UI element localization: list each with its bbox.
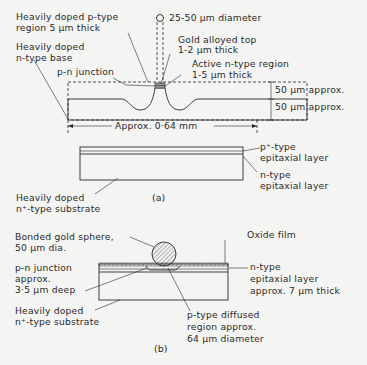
- label-width-dimension: Approx. 0·64 mm: [115, 120, 197, 131]
- label-pn-junction: p-n junction: [57, 66, 114, 77]
- caption-a: (a): [152, 192, 165, 203]
- label-n-layer-2: epitaxial layer: [260, 180, 328, 191]
- label-n-type-base-2: n-type base: [16, 52, 73, 63]
- label-pn-junction-b: p-n junction: [15, 262, 72, 273]
- label-dim-lower: 50 µm approx.: [275, 101, 345, 112]
- whisker-tip-icon: [157, 15, 164, 22]
- label-n-epi: n-type: [250, 261, 281, 272]
- label-active-region-thickness: 1-5 µm thick: [192, 69, 253, 80]
- label-active-region: Active n-type region: [192, 58, 289, 69]
- label-n-epi-2: epitaxial layer: [250, 273, 318, 284]
- label-gold-sphere-diameter: 50 µm dia.: [15, 242, 66, 253]
- label-pn-junction-b-depth: 3·5 µm deep: [15, 284, 75, 295]
- label-p-diffused-diameter: 64 µm diameter: [187, 333, 264, 344]
- label-pn-junction-b-2: approx.: [15, 273, 51, 284]
- label-n-type-base: Heavily doped: [16, 41, 84, 52]
- gold-sphere: [152, 242, 176, 266]
- label-substrate-2: n⁺-type substrate: [16, 203, 100, 214]
- label-n-layer: n-type: [260, 169, 291, 180]
- label-p-type-region: Heavily doped p-type: [16, 11, 119, 22]
- figure-a-mesa-diode: Heavily doped p-type region 5 µm thick H…: [16, 11, 345, 135]
- diode-construction-diagram: Heavily doped p-type region 5 µm thick H…: [0, 0, 367, 365]
- label-gold-sphere: Bonded gold sphere,: [15, 231, 114, 242]
- label-gold-top-thickness: 1-2 µm thick: [178, 44, 239, 55]
- figure-a-epitaxial-structure: p⁺-type epitaxial layer n-type epitaxial…: [16, 141, 328, 214]
- label-p-plus-layer-2: epitaxial layer: [260, 152, 328, 163]
- label-substrate-b: Heavily doped: [15, 305, 83, 316]
- label-p-diffused: p-type diffused: [187, 309, 260, 320]
- label-p-plus-layer: p⁺-type: [260, 141, 296, 152]
- label-oxide-film: Oxide film: [247, 229, 296, 240]
- label-p-diffused-2: region approx.: [187, 321, 256, 332]
- label-substrate-b-2: n⁺-type substrate: [15, 316, 99, 327]
- label-substrate: Heavily doped: [16, 192, 84, 203]
- label-p-type-region-thickness: region 5 µm thick: [16, 22, 101, 33]
- caption-b: (b): [154, 343, 167, 354]
- label-n-epi-thickness: approx. 7 µm thick: [250, 285, 340, 296]
- label-dim-upper: 50 µm approx.: [275, 84, 345, 95]
- figure-b-gold-bonded-diode: Bonded gold sphere, 50 µm dia. Oxide fil…: [15, 229, 340, 354]
- label-diameter: 25-50 µm diameter: [169, 12, 261, 23]
